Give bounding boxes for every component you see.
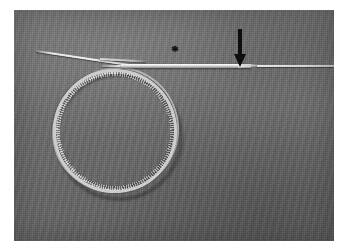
guidewire-coil <box>52 67 176 191</box>
arrow-icon <box>233 29 247 67</box>
coil-braid-texture <box>53 69 177 193</box>
asterisk-marker: * <box>168 43 182 59</box>
needle-shaft-right <box>257 65 334 67</box>
figure-root: * <box>0 0 346 250</box>
photograph-plate: * <box>14 10 334 241</box>
arrow-shaft <box>238 29 242 56</box>
needle-highlight <box>126 64 246 65</box>
arrow-head <box>234 54 246 67</box>
